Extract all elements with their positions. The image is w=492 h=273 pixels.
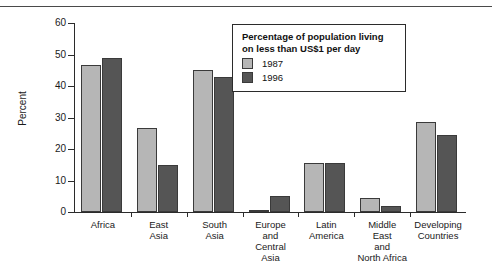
legend-entries: 19871996 [242,57,397,84]
bar-1987 [137,128,157,212]
bar-1996 [102,58,122,212]
x-category-label: EastAsia [131,219,187,241]
bar-group [75,23,131,212]
bar-1996 [381,206,401,212]
y-tick-mark [68,149,74,150]
x-axis-line [74,212,466,213]
y-tick-label: 60 [26,18,66,28]
bar-1987 [360,198,380,212]
x-tick-mark [187,212,188,217]
legend-swatch-icon [242,72,253,83]
y-tick-label: 0 [26,207,66,217]
y-tick-mark [68,118,74,119]
y-tick-label: 40 [26,81,66,91]
y-tick-label: 10 [26,176,66,186]
bar-group [131,23,187,212]
bar-chart-figure: Percent 6050403020100 AfricaEastAsiaSout… [0,0,492,273]
bar-1987 [81,65,101,212]
bar-1996 [325,163,345,212]
x-tick-mark [410,212,411,217]
bar-1987 [249,210,269,212]
bar-1987 [304,163,324,212]
legend-label: 1996 [262,72,283,83]
bar-1987 [193,70,213,212]
bar-1996 [270,196,290,212]
x-category-label: EuropeandCentralAsia [243,219,299,263]
y-tick-mark [68,181,74,182]
y-tick-mark [68,86,74,87]
y-tick-label: 20 [26,144,66,154]
x-category-label: SouthAsia [187,219,243,241]
bar-1987 [416,122,436,212]
y-tick-mark [68,23,74,24]
legend-entry: 1987 [242,57,397,70]
legend-label: 1987 [262,58,283,69]
legend-entry: 1996 [242,71,397,84]
x-tick-mark [131,212,132,217]
legend-swatch-icon [242,58,253,69]
x-tick-mark [298,212,299,217]
bar-1996 [214,77,234,212]
y-tick-mark [68,212,74,213]
y-tick-label: 50 [26,50,66,60]
x-tick-mark [243,212,244,217]
x-category-label: LatinAmerica [298,219,354,241]
x-category-label: Africa [75,219,131,230]
bar-group [410,23,466,212]
chart-legend: Percentage of population living on less … [232,24,406,92]
y-tick-label: 30 [26,113,66,123]
x-category-label: MiddleEastandNorth Africa [354,219,410,263]
legend-title: Percentage of population living on less … [242,31,397,54]
y-tick-mark [68,55,74,56]
bar-1996 [158,165,178,212]
bar-1996 [437,135,457,212]
x-category-label: DevelopingCountries [410,219,466,241]
x-tick-mark [354,212,355,217]
